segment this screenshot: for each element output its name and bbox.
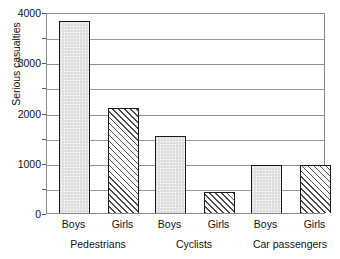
bar: [59, 21, 90, 213]
x-axis-bar-label: Boys: [254, 218, 277, 231]
x-axis-group-label: Car passengers: [253, 238, 327, 251]
x-axis-bar-label: Boys: [62, 218, 85, 231]
bar: [251, 165, 282, 213]
bar: [300, 165, 331, 213]
bar-chart: Serious casualties 01000200030004000 Boy…: [0, 0, 340, 259]
bar: [155, 136, 186, 213]
x-axis-bar-label: Girls: [112, 218, 134, 231]
bar: [204, 192, 235, 213]
y-axis-tick-mark: [42, 214, 46, 215]
plot-area: [46, 13, 325, 214]
x-axis-group-labels: PedestriansCyclistsCar passengers: [0, 238, 340, 254]
x-axis-sub-labels: BoysGirlsBoysGirlsBoysGirls: [0, 218, 340, 234]
x-axis-group-label: Cyclists: [176, 238, 212, 251]
bars-layer: [47, 14, 324, 213]
y-axis-tick-label: 1000: [1, 159, 41, 169]
x-axis-bar-label: Girls: [208, 218, 230, 231]
bar: [108, 108, 139, 213]
x-axis-bar-label: Boys: [158, 218, 181, 231]
x-axis-bar-label: Girls: [304, 218, 326, 231]
x-axis-group-label: Pedestrians: [70, 238, 125, 251]
y-axis-tick-label: 3000: [1, 58, 41, 68]
y-axis-tick-label: 2000: [1, 109, 41, 119]
y-axis-tick-label: 4000: [1, 8, 41, 18]
